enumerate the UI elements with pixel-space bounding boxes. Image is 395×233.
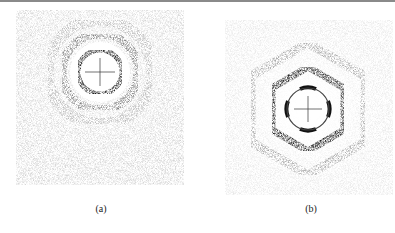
figure-canvas	[0, 0, 395, 233]
caption-a: (a)	[81, 203, 121, 214]
panel-b-pattern	[225, 20, 393, 195]
panel-a-pattern	[16, 10, 184, 185]
caption-b: (b)	[291, 203, 331, 214]
